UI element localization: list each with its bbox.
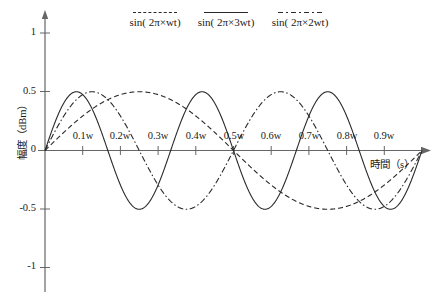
x-axis-tick-label-0p5: 0.5w <box>213 130 255 141</box>
x-axis-tick-label-0p1: 0.1w <box>62 130 104 141</box>
legend-item-sin-2w: sin( 2π×2wt) <box>258 9 342 28</box>
legend-label-sin-3w: sin( 2π×3wt) <box>186 16 266 28</box>
x-axis-tick-label-0p4: 0.4w <box>175 130 217 141</box>
legend-sample-solid <box>204 9 248 15</box>
y-axis-arrowhead <box>42 10 48 19</box>
waveform-plot <box>0 0 441 299</box>
y-axis-tick-label-1: 1 <box>14 26 36 37</box>
x-axis-tick-label-0p2: 0.2w <box>99 130 141 141</box>
x-axis-tick-label-0p7: 0.7w <box>288 130 330 141</box>
legend-sample-dashdot <box>278 9 322 15</box>
legend-item-sin-w: sin( 2π×wt) <box>117 9 193 28</box>
y-axis-tick-label-neg1: -1 <box>10 260 36 271</box>
legend-label-sin-2w: sin( 2π×2wt) <box>258 16 342 28</box>
y-axis-title: 幅度（dBm） <box>14 100 29 160</box>
x-axis-tick-label-0p3: 0.3w <box>137 130 179 141</box>
chart-figure: sin( 2π×wt) sin( 2π×3wt) sin( 2π×2wt) 1 … <box>0 0 441 299</box>
x-axis-tick-label-0p9: 0.9w <box>363 130 405 141</box>
x-axis-arrowhead <box>421 147 431 154</box>
legend-item-sin-3w: sin( 2π×3wt) <box>186 9 266 28</box>
x-axis-tick-label-0p8: 0.8w <box>326 130 368 141</box>
legend-label-sin-w: sin( 2π×wt) <box>117 16 193 28</box>
legend-sample-dashed <box>133 9 177 15</box>
x-axis-title: 時間（s） <box>370 156 414 171</box>
x-axis-tick-label-0p6: 0.6w <box>250 130 292 141</box>
y-axis-tick-label-neg0p5: -0.5 <box>4 202 36 213</box>
y-axis-tick-label-0p5: 0.5 <box>8 85 36 96</box>
